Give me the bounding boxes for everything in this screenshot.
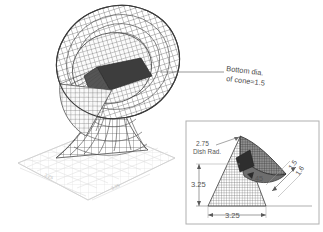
inset-detail-box: 3.25 3.25 2.75 Dish Rad. <box>186 121 319 224</box>
inset-dish-radius-value: 2.75 <box>196 140 209 147</box>
inset-angle-label: 45 <box>255 174 263 183</box>
inset-dish-radius-caption: Dish Rad. <box>193 148 221 155</box>
technical-drawing: 3.25 3.25 <box>0 0 323 232</box>
parabolic-dish <box>42 0 195 136</box>
figure-canvas: 3.25 3.25 <box>0 0 323 232</box>
inset-height-label: 3.25 <box>191 180 206 189</box>
inset-base-width-label: 3.25 <box>225 211 240 220</box>
